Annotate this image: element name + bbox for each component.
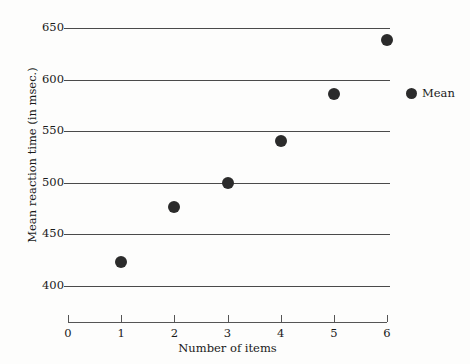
- x-axis-tick-mark: [228, 315, 229, 322]
- data-point: [275, 135, 287, 147]
- data-point: [328, 88, 340, 100]
- scatter-chart: 650600550500450400 0123456 Number of ite…: [0, 0, 470, 364]
- data-point: [168, 201, 180, 213]
- x-axis-tick-label: 0: [56, 326, 80, 340]
- y-axis-title: Mean reaction time (in msec.): [25, 60, 39, 250]
- gridline: [68, 131, 390, 132]
- x-axis-line: [68, 322, 387, 323]
- x-axis-tick-mark: [387, 315, 388, 322]
- gridline: [68, 28, 390, 29]
- y-axis-tick-mark: [64, 80, 69, 81]
- x-axis-tick-label: 6: [375, 326, 399, 340]
- y-axis-tick: 650: [22, 22, 64, 34]
- data-point: [222, 177, 234, 189]
- y-axis-tick-label: 400: [24, 280, 64, 292]
- legend-marker-mean-icon: [406, 88, 417, 99]
- y-axis-tick: 400: [22, 280, 64, 292]
- legend: Mean: [406, 86, 455, 100]
- data-point: [381, 34, 393, 46]
- x-axis-tick-mark: [68, 315, 69, 322]
- y-axis-tick-mark: [64, 183, 69, 184]
- x-axis-tick-mark: [121, 315, 122, 322]
- x-axis-tick-mark: [174, 315, 175, 322]
- x-axis-tick-label: 4: [269, 326, 293, 340]
- y-axis-tick-mark: [64, 286, 69, 287]
- gridline: [68, 234, 390, 235]
- x-axis-tick-mark: [281, 315, 282, 322]
- x-axis-tick-label: 5: [322, 326, 346, 340]
- x-axis-tick-label: 2: [162, 326, 186, 340]
- x-axis-tick-label: 1: [109, 326, 133, 340]
- y-axis-tick-mark: [64, 28, 69, 29]
- data-point: [115, 256, 127, 268]
- legend-label-mean: Mean: [422, 86, 455, 100]
- x-axis-tick-mark: [334, 315, 335, 322]
- y-axis-tick-label: 650: [24, 22, 64, 34]
- y-axis-tick-mark: [64, 234, 69, 235]
- gridline: [68, 286, 390, 287]
- x-axis-tick-label: 3: [216, 326, 240, 340]
- y-axis-tick-mark: [64, 131, 69, 132]
- x-axis-title: Number of items: [68, 341, 387, 355]
- gridline: [68, 80, 390, 81]
